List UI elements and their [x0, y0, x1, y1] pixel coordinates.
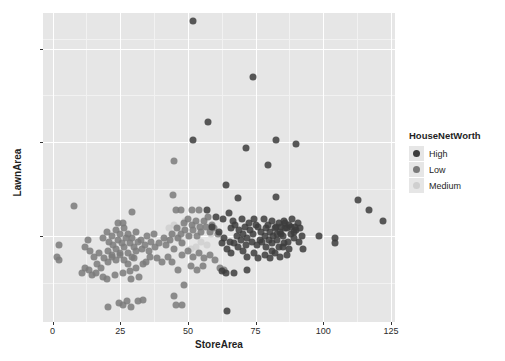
data-point — [170, 191, 177, 198]
data-point — [190, 137, 197, 144]
data-point — [168, 231, 175, 238]
data-point — [168, 259, 175, 266]
legend-item-label: Low — [429, 165, 446, 175]
data-point — [130, 255, 137, 262]
data-point — [56, 242, 63, 249]
data-point — [203, 242, 210, 249]
gridline-major-vertical — [188, 13, 189, 322]
data-point — [205, 214, 212, 221]
data-point — [244, 266, 251, 273]
data-point — [283, 251, 290, 258]
data-point — [279, 244, 286, 251]
y-axis-title: LawnArea — [12, 123, 23, 223]
data-point — [235, 195, 242, 202]
data-point — [272, 137, 279, 144]
gridline-major-vertical — [391, 13, 392, 322]
data-point — [133, 264, 140, 271]
data-point — [272, 193, 279, 200]
data-point — [133, 247, 140, 254]
data-point — [199, 262, 206, 269]
legend-item-high: High — [409, 146, 501, 161]
gridline-minor-horizontal — [43, 283, 395, 284]
scatter-plot-figure: StoreArea LawnArea HouseNetWorth HighLow… — [0, 0, 505, 361]
x-tick-label: 100 — [316, 326, 331, 336]
x-axis-title: StoreArea — [43, 339, 395, 350]
data-point — [140, 296, 147, 303]
legend-point-icon — [413, 150, 420, 157]
gridline-minor-horizontal — [43, 189, 395, 190]
data-point — [195, 206, 202, 213]
data-point — [225, 210, 232, 217]
data-point — [56, 257, 63, 264]
legend-item-medium: Medium — [409, 178, 501, 193]
data-point — [171, 157, 178, 164]
gridline-major-vertical — [53, 13, 54, 322]
y-tick-mark — [40, 142, 43, 143]
data-point — [125, 260, 132, 267]
data-point — [79, 270, 86, 277]
data-point — [105, 304, 112, 311]
legend: HouseNetWorth HighLowMedium — [409, 130, 501, 194]
y-tick-mark — [40, 49, 43, 50]
data-point — [179, 302, 186, 309]
x-tick-label: 125 — [383, 326, 398, 336]
data-point — [220, 216, 227, 223]
data-point — [222, 182, 229, 189]
data-point — [213, 214, 220, 221]
data-point — [274, 231, 281, 238]
x-tick-label: 25 — [115, 326, 125, 336]
data-point — [142, 259, 149, 266]
gridline-minor-horizontal — [43, 39, 395, 40]
data-point — [156, 240, 163, 247]
gridline-major-horizontal — [43, 49, 395, 50]
data-point — [178, 206, 185, 213]
gridline-minor-vertical — [289, 13, 290, 322]
data-point — [126, 268, 133, 275]
data-point — [205, 118, 212, 125]
data-point — [71, 202, 78, 209]
data-point — [316, 232, 323, 239]
x-tick-label: 75 — [251, 326, 261, 336]
data-point — [180, 281, 187, 288]
gridline-minor-horizontal — [43, 95, 395, 96]
data-point — [249, 73, 256, 80]
data-point — [128, 304, 135, 311]
data-point — [133, 229, 140, 236]
x-tick-mark — [188, 322, 189, 325]
data-point — [268, 247, 275, 254]
data-point — [332, 240, 339, 247]
data-point — [159, 259, 166, 266]
x-tick-label: 0 — [50, 326, 55, 336]
legend-key-swatch — [409, 178, 424, 193]
gridline-minor-vertical — [154, 13, 155, 322]
x-tick-mark — [53, 322, 54, 325]
data-point — [134, 238, 141, 245]
data-point — [175, 266, 182, 273]
data-point — [129, 208, 136, 215]
data-point — [111, 272, 118, 279]
data-point — [209, 223, 216, 230]
x-tick-mark — [323, 322, 324, 325]
data-point — [179, 240, 186, 247]
data-point — [355, 197, 362, 204]
x-tick-mark — [120, 322, 121, 325]
data-point — [379, 217, 386, 224]
data-point — [224, 307, 231, 314]
gridline-major-vertical — [323, 13, 324, 322]
gridline-major-vertical — [256, 13, 257, 322]
data-point — [171, 246, 178, 253]
gridline-major-horizontal — [43, 142, 395, 143]
data-point — [295, 238, 302, 245]
data-point — [366, 206, 373, 213]
data-point — [216, 229, 223, 236]
legend-point-icon — [413, 166, 420, 173]
legend-item-low: Low — [409, 162, 501, 177]
data-point — [103, 275, 110, 282]
legend-title: HouseNetWorth — [409, 130, 501, 141]
data-point — [144, 232, 151, 239]
legend-key-swatch — [409, 146, 424, 161]
legend-item-label: Medium — [429, 181, 461, 191]
x-tick-label: 50 — [183, 326, 193, 336]
data-point — [171, 292, 178, 299]
legend-point-icon — [413, 182, 420, 189]
